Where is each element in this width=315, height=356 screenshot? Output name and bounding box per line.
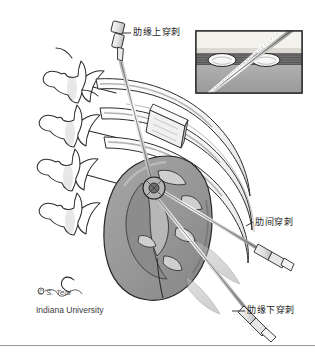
spine-shading bbox=[63, 75, 77, 234]
artist-signature: © S. Teal bbox=[38, 288, 71, 297]
supracostal-needle-hub bbox=[111, 21, 126, 61]
label-intercostal-puncture: 肋间穿刺 bbox=[255, 218, 293, 227]
label-subcostal-puncture: 肋缘下穿刺 bbox=[247, 306, 295, 315]
institution-credit: Indiana University bbox=[36, 305, 104, 315]
spinous-process-top bbox=[56, 48, 72, 58]
vertebra-3 bbox=[37, 149, 116, 191]
intercostal-needle-hub bbox=[254, 244, 294, 271]
anatomy-artwork bbox=[0, 0, 315, 356]
medical-illustration-figure: 肋缘上穿刺 肋间穿刺 肋缘下穿刺 © S. Teal Indiana Unive… bbox=[0, 0, 315, 356]
label-supracostal-puncture: 肋缘上穿刺 bbox=[133, 28, 181, 37]
inset-fat-layer bbox=[196, 48, 302, 53]
rib-cross-section-inset bbox=[196, 28, 302, 96]
bottom-divider bbox=[0, 345, 315, 346]
needle-tip-target bbox=[143, 177, 165, 199]
